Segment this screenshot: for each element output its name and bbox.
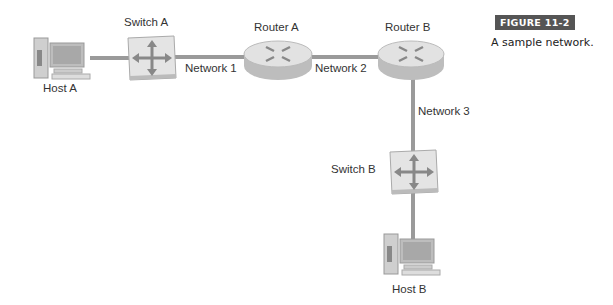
host-b-computer-icon[interactable] (382, 232, 444, 278)
router-a-label: Router A (254, 21, 299, 33)
host-a-computer-icon[interactable] (32, 36, 94, 82)
network-3-label: Network 3 (418, 105, 470, 117)
switch-b-label: Switch B (331, 163, 376, 175)
figure-badge: FIGURE 11-2 (495, 15, 575, 30)
router-b-icon[interactable] (376, 38, 446, 84)
network-2-label: Network 2 (315, 62, 367, 74)
switch-a-icon[interactable] (124, 34, 180, 82)
switch-b-icon[interactable] (386, 148, 442, 196)
router-a-icon[interactable] (242, 38, 314, 84)
router-b-label: Router B (385, 21, 430, 33)
figure-caption: A sample network. (491, 36, 594, 49)
switch-a-label: Switch A (124, 16, 168, 28)
host-b-label: Host B (392, 283, 427, 295)
host-a-label: Host A (43, 82, 77, 94)
network-1-label: Network 1 (185, 62, 237, 74)
